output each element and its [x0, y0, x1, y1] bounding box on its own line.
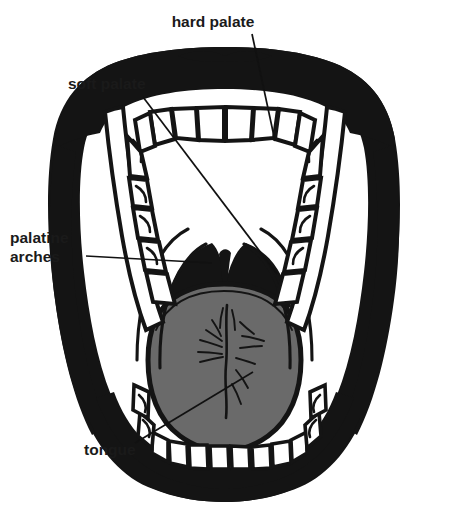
- label-hard-palate: hard palate: [172, 13, 255, 30]
- median-sulcus: [225, 305, 227, 418]
- label-tongue: tongue: [84, 441, 136, 458]
- label-palatine-arches-line1: palatine: [10, 229, 69, 246]
- label-palatine-arches-line2: arches: [10, 248, 60, 265]
- upper-incisors: [172, 107, 278, 141]
- label-soft-palate: soft palate: [68, 75, 146, 92]
- oral-cavity-diagram: hard palate soft palate palatine arches …: [0, 0, 450, 525]
